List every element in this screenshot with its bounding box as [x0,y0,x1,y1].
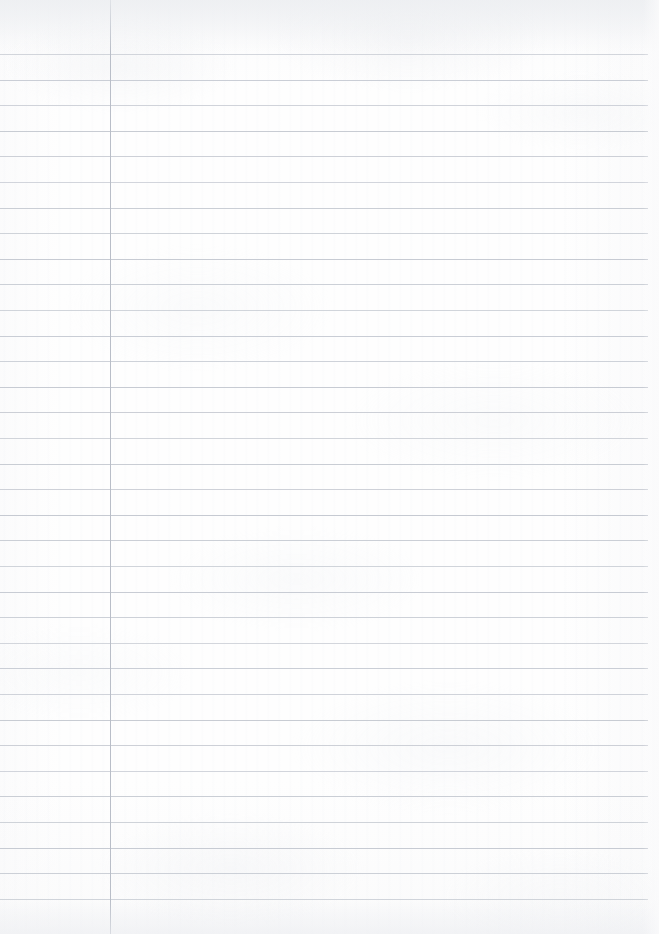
rule-line [0,694,648,695]
rule-line [0,182,648,183]
rule-line [0,643,648,644]
rule-line [0,233,648,234]
rule-line [0,259,648,260]
rule-line [0,336,648,337]
rule-line [0,617,648,618]
rule-line [0,105,648,106]
rule-line [0,284,648,285]
rule-line [0,540,648,541]
rule-line [0,412,648,413]
rule-line [0,515,648,516]
rule-line [0,771,648,772]
rule-line [0,745,648,746]
rule-line [0,156,648,157]
rule-line [0,208,648,209]
rule-line [0,796,648,797]
rule-line [0,566,648,567]
rule-line [0,438,648,439]
rule-line [0,592,648,593]
rule-line [0,489,648,490]
rule-line [0,873,648,874]
rule-line [0,361,648,362]
rule-line [0,54,648,55]
rule-line [0,720,648,721]
rule-line [0,464,648,465]
rule-line [0,387,648,388]
rule-line [0,899,648,900]
rule-line [0,668,648,669]
rule-line [0,848,648,849]
ruled-lines-group [0,0,659,934]
rule-line [0,131,648,132]
rule-line [0,822,648,823]
rule-line [0,310,648,311]
vertical-margin-line [110,0,111,934]
rule-line [0,80,648,81]
scanned-page [0,0,659,934]
